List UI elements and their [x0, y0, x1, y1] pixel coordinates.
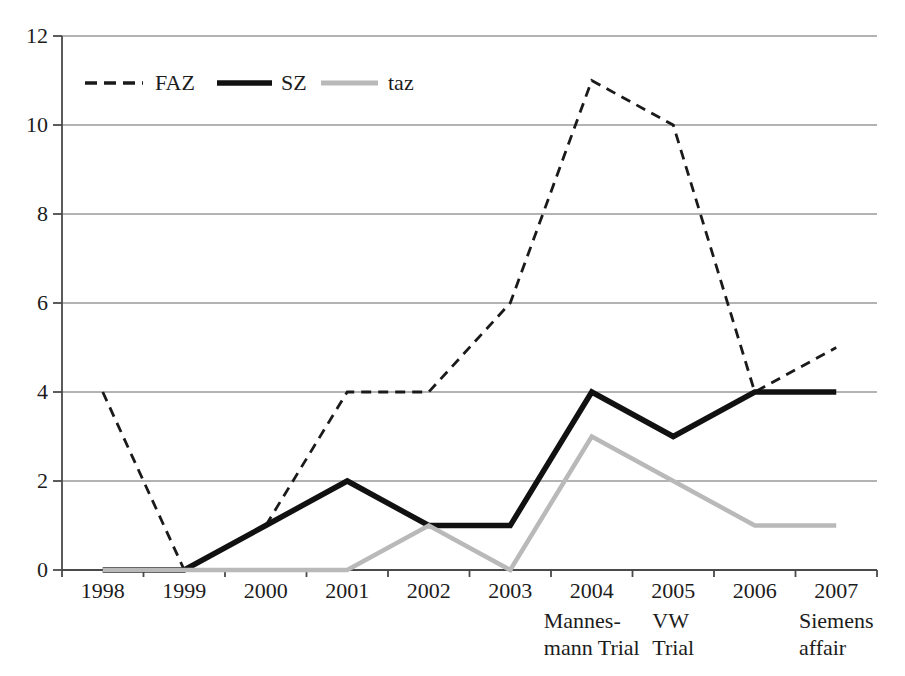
x-axis-label-2007: 2007Siemens affair: [799, 578, 874, 661]
year-label: 2000: [244, 578, 288, 604]
year-label: 2006: [733, 578, 777, 604]
x-axis-label-2001: 2001: [325, 578, 369, 604]
y-axis-label-8: 8: [0, 201, 48, 227]
x-axis-label-2006: 2006: [733, 578, 777, 604]
x-axis-label-1998: 1998: [81, 578, 125, 604]
y-axis-label-0: 0: [0, 557, 48, 583]
year-label: 2001: [325, 578, 369, 604]
chart-canvas: [0, 0, 905, 676]
x-axis-label-2002: 2002: [407, 578, 451, 604]
year-label: 2003: [488, 578, 532, 604]
series-line-taz: [103, 437, 837, 571]
annotation-2004: Mannes- mann Trial: [544, 607, 640, 661]
series-line-faz: [103, 81, 837, 571]
y-axis-label-6: 6: [0, 290, 48, 316]
year-label: 1998: [81, 578, 125, 604]
x-axis-label-2000: 2000: [244, 578, 288, 604]
x-axis-label-2005: 2005VW Trial: [651, 578, 695, 661]
legend-label-taz: taz: [388, 70, 414, 96]
x-axis-label-2004: 2004Mannes- mann Trial: [544, 578, 640, 661]
legend-label-faz: FAZ: [155, 70, 195, 96]
year-label: 2004: [544, 578, 640, 604]
year-label: 2005: [651, 578, 695, 604]
legend-label-sz: SZ: [281, 70, 307, 96]
year-label: 2007: [799, 578, 874, 604]
year-label: 1999: [162, 578, 206, 604]
y-axis-label-4: 4: [0, 379, 48, 405]
y-axis-label-2: 2: [0, 468, 48, 494]
y-axis-label-12: 12: [0, 23, 48, 49]
y-axis-label-10: 10: [0, 112, 48, 138]
year-label: 2002: [407, 578, 451, 604]
annotation-2007: Siemens affair: [799, 607, 874, 661]
x-axis-label-1999: 1999: [162, 578, 206, 604]
newspaper-coverage-line-chart: FAZSZtaz02468101219981999200020012002200…: [0, 0, 905, 676]
x-axis-label-2003: 2003: [488, 578, 532, 604]
annotation-2005: VW Trial: [652, 607, 694, 661]
